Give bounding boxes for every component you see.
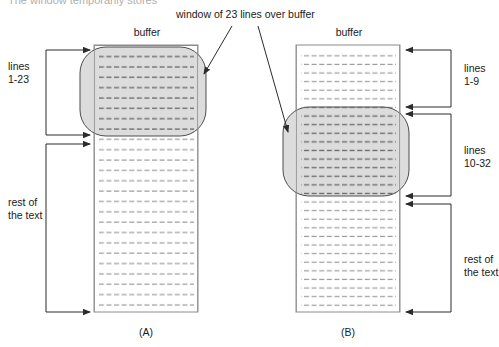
bracket-b-lines-10-32-label-line2: 10-32	[464, 157, 491, 170]
bracket-b-lines-10-32	[406, 114, 451, 196]
buffer-label-a: buffer	[122, 26, 172, 39]
bracket-b-lines-1-9	[406, 50, 451, 107]
panel-a-caption: (A)	[126, 326, 166, 339]
bracket-b-lines-10-32-label-line1: lines	[464, 144, 486, 157]
window-a-text-lines	[99, 48, 194, 138]
bracket-a-rest-label-line2: the text	[8, 209, 42, 222]
panel-b-caption: (B)	[328, 326, 368, 339]
figure-canvas: The window temporarily stores	[0, 0, 499, 347]
diagram-svg	[0, 0, 499, 347]
bracket-a-rest-label-line1: rest of	[8, 196, 37, 209]
bracket-b-lines-1-9-label-line2: 1-9	[464, 75, 479, 88]
bracket-a-rest-of-text	[46, 144, 90, 312]
window-annotation-label: window of 23 lines over buffer	[176, 8, 314, 21]
buffer-label-b: buffer	[324, 26, 374, 39]
bracket-a-lines-1-23-label-line2: 1-23	[8, 73, 29, 86]
panel-a	[46, 45, 206, 312]
bracket-b-rest-of-text	[406, 204, 451, 312]
bracket-b-rest-label-line2: the text	[464, 266, 498, 279]
panel-b	[283, 45, 451, 312]
bracket-b-rest-label-line1: rest of	[464, 253, 493, 266]
annotation-leader-lines	[204, 26, 288, 132]
bracket-b-lines-1-9-label-line1: lines	[464, 62, 486, 75]
bracket-a-lines-1-23-label-line1: lines	[8, 60, 30, 73]
